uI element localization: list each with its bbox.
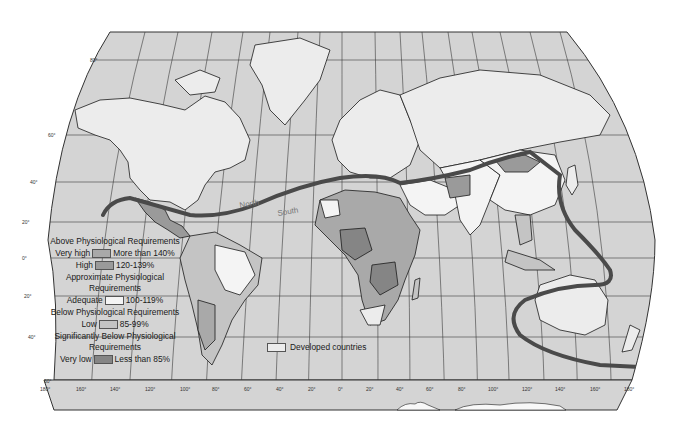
svg-text:100°: 100° [180,386,190,392]
legend-low: Low 85-99% [30,319,200,330]
svg-text:80°: 80° [90,57,98,63]
svg-text:20°: 20° [308,386,316,392]
svg-text:140°: 140° [555,386,565,392]
svg-text:60°: 60° [48,132,56,138]
svg-text:60°: 60° [244,386,252,392]
swatch-low [99,320,118,329]
svg-text:0°: 0° [338,386,343,392]
svg-text:160°: 160° [76,386,86,392]
legend-below-heading: Below Physiological Requirements [30,307,200,318]
legend-very-low: Very low Less than 85% [30,354,200,365]
svg-text:140°: 140° [110,386,120,392]
legend-above-heading: Above Physiological Requirements [30,236,200,247]
svg-text:80°: 80° [458,386,466,392]
svg-text:100°: 100° [488,386,498,392]
legend: Above Physiological Requirements Very hi… [30,236,200,366]
svg-text:40°: 40° [276,386,284,392]
svg-text:0°: 0° [22,255,27,261]
legend-high: High 120-139% [30,260,200,271]
svg-text:20°: 20° [366,386,374,392]
svg-text:180°: 180° [624,386,634,392]
swatch-very-high [92,249,111,258]
svg-text:40°: 40° [30,179,38,185]
legend-sig-below-heading: Significantly Below Physiological Requir… [30,331,200,353]
svg-text:20°: 20° [22,219,30,225]
legend-approx-heading: Approximate Physiological Requirements [30,272,200,294]
world-map: North South 80° 60° 40° 20° 0° 20° 40° 6… [0,0,673,435]
swatch-developed [267,343,286,352]
swatch-adequate [105,296,124,305]
svg-text:40°: 40° [396,386,404,392]
legend-very-high: Very high More than 140% [30,248,200,259]
svg-text:60°: 60° [426,386,434,392]
svg-text:80°: 80° [212,386,220,392]
legend-adequate: Adequate 100-119% [30,295,200,306]
svg-text:180°: 180° [40,386,50,392]
legend-developed: Developed countries [267,342,366,352]
svg-text:120°: 120° [145,386,155,392]
swatch-very-low [94,355,113,364]
svg-text:60°: 60° [44,378,52,384]
svg-text:160°: 160° [590,386,600,392]
swatch-high [95,261,114,270]
svg-text:120°: 120° [522,386,532,392]
